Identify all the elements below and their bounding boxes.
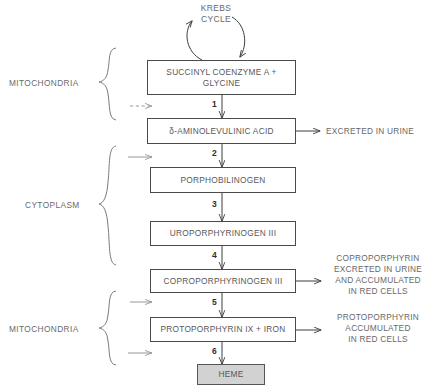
step-number-2: 2 [212, 148, 217, 158]
node-aminolevulinic-acid[interactable]: δ-AMINOLEVULINIC ACID [147, 118, 296, 144]
node-uroporphyrinogen-iii[interactable]: UROPORPHYRINOGEN III [150, 221, 296, 246]
step-number-1: 1 [212, 99, 217, 109]
node-label: HEME [219, 369, 244, 380]
step-number-3: 3 [212, 199, 217, 209]
node-coproporphyrinogen-iii[interactable]: COPROPORPHYRINOGEN III [150, 269, 296, 293]
compartment-label-mitochondria-top: MITOCHONDRIA [9, 78, 79, 88]
compartment-label-mitochondria-bottom: MITOCHONDRIA [9, 324, 79, 334]
node-succinyl-coenzyme-a-glycine[interactable]: SUCCINYL COENZYME A + GLYCINE [147, 60, 296, 95]
node-label: SUCCINYL COENZYME A + GLYCINE [166, 67, 276, 88]
brace-cytoplasm [99, 146, 116, 265]
brace-mitochondria-top [99, 48, 116, 120]
node-heme[interactable]: HEME [197, 364, 265, 385]
node-label: COPROPORPHYRINOGEN III [164, 276, 283, 287]
output-label-protoporphyrin-fate: PROTOPORPHYRIN ACCUMULATED IN RED CELLS [323, 312, 433, 345]
krebs-cycle-arc-left [187, 21, 202, 60]
krebs-cycle-label: KREBS CYCLE [188, 3, 244, 25]
output-label-excreted-in-urine: EXCRETED IN URINE [326, 126, 434, 137]
node-porphobilinogen[interactable]: PORPHOBILINOGEN [150, 167, 296, 193]
node-label: δ-AMINOLEVULINIC ACID [169, 126, 273, 137]
step-number-5: 5 [212, 297, 217, 307]
node-protoporphyrin-ix-iron[interactable]: PROTOPORPHYRIN IX + IRON [150, 317, 296, 342]
node-label: PORPHOBILINOGEN [181, 175, 266, 186]
step-number-4: 4 [212, 250, 217, 260]
node-label: PROTOPORPHYRIN IX + IRON [160, 324, 285, 335]
node-label: UROPORPHYRINOGEN III [170, 228, 276, 239]
brace-mitochondria-bottom [99, 291, 116, 365]
output-label-coproporphyrin-fate: COPROPORPHYRIN EXCRETED IN URINE AND ACC… [323, 253, 433, 297]
heme-biosynthesis-diagram: KREBS CYCLE SUCCINYL COENZYME A + GLYCIN… [0, 0, 435, 388]
compartment-label-cytoplasm: CYTOPLASM [25, 200, 80, 210]
step-number-6: 6 [212, 346, 217, 356]
